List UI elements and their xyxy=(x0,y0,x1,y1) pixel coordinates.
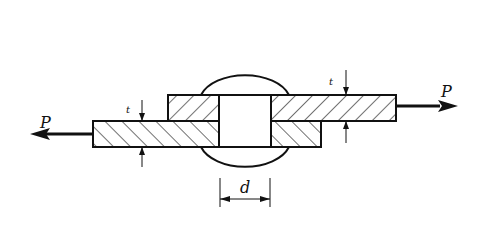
riveted-lap-joint-diagram: P P t t d xyxy=(0,0,483,243)
diameter-label: d xyxy=(240,178,250,197)
rivet-shank xyxy=(219,95,271,147)
force-label-right: P xyxy=(440,82,452,101)
force-arrow-right xyxy=(396,100,458,112)
rivet-head-bottom xyxy=(201,147,289,167)
upper-plate xyxy=(168,95,396,121)
thickness-label-left: t xyxy=(126,104,131,115)
thickness-label-right: t xyxy=(329,76,334,87)
lower-plate xyxy=(93,121,321,147)
force-label-left: P xyxy=(39,113,51,132)
rivet-head-top xyxy=(201,75,289,95)
